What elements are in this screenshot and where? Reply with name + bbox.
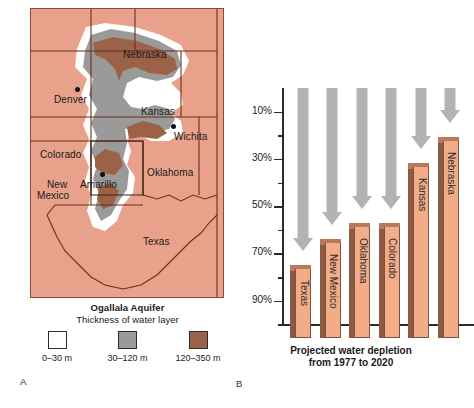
legend-item-0-30m: 0–30 m — [26, 331, 88, 363]
y-tick-major — [274, 253, 284, 254]
bar-label: Texas — [296, 275, 310, 306]
bar-new-mexico[interactable]: New Mexico — [320, 239, 341, 338]
depletion-arrow — [381, 88, 402, 209]
y-tick-major — [274, 206, 284, 207]
city-dot-amarillo — [100, 172, 105, 177]
y-tick-minor — [278, 230, 284, 231]
chart-caption-line2: from 1977 to 2020 — [240, 357, 462, 369]
bar-nebraska[interactable]: Nebraska — [438, 137, 459, 338]
depletion-arrow — [322, 88, 343, 225]
white-swatch-icon — [48, 331, 67, 349]
panel-label-a: A — [20, 376, 26, 387]
y-tick-label: 30% — [238, 152, 272, 163]
bar-front-face: New Mexico — [325, 243, 341, 338]
arrow-head-icon — [440, 110, 460, 123]
map-label-oklahoma: Oklahoma — [147, 167, 193, 178]
bar-front-face: Texas — [295, 269, 311, 338]
map-label-texas: Texas — [143, 236, 170, 247]
bar-label: Nebraska — [444, 147, 458, 195]
map-label-colorado: Colorado — [40, 149, 81, 160]
arrow-shaft — [386, 88, 397, 196]
legend-caption-120-350m: 120–350 m — [167, 353, 229, 363]
arrow-shaft — [445, 88, 456, 110]
map-frame: Nebraska Kansas Colorado Wichita Oklahom… — [30, 8, 224, 298]
chart-caption-line1: Projected water depletion — [240, 345, 462, 357]
depletion-arrow — [351, 88, 372, 209]
bar-label: New Mexico — [326, 249, 340, 308]
legend-caption-0-30m: 0–30 m — [26, 353, 88, 363]
arrow-shaft — [327, 88, 338, 212]
arrow-shaft — [356, 88, 367, 196]
bar-label: Oklahoma — [355, 233, 369, 284]
gray-swatch-icon — [118, 331, 137, 349]
legend-title: Ogallala Aquifer — [20, 302, 235, 313]
bar-label: Colorado — [385, 233, 399, 279]
map-label-new: New — [47, 179, 67, 190]
arrow-head-icon — [293, 238, 313, 251]
city-dot-wichita — [171, 124, 176, 129]
depletion-arrow — [440, 88, 461, 123]
arrow-shaft — [415, 88, 426, 136]
y-tick-label: 90% — [238, 294, 272, 305]
map-label-nebraska: Nebraska — [123, 49, 167, 60]
map-label-denver: Denver — [54, 94, 87, 105]
map-legend: Ogallala Aquifer Thickness of water laye… — [20, 302, 235, 363]
city-dot-denver — [75, 87, 80, 92]
map-label-mexico: Mexico — [37, 190, 69, 201]
bar-front-face: Oklahoma — [354, 227, 370, 339]
panel-b-chart: 10%30%50%70%90% TexasNew MexicoOklahomaC… — [240, 0, 462, 408]
y-tick-label: 70% — [238, 246, 272, 257]
y-tick-minor — [278, 135, 284, 136]
bar-front-face: Colorado — [384, 227, 400, 339]
legend-item-30-120m: 30–120 m — [97, 331, 159, 363]
arrow-head-icon — [352, 196, 372, 209]
legend-subtitle: Thickness of water layer — [20, 314, 235, 325]
bar-texas[interactable]: Texas — [290, 265, 311, 338]
legend-caption-30-120m: 30–120 m — [97, 353, 159, 363]
y-tick-minor — [278, 277, 284, 278]
depletion-arrow — [410, 88, 431, 149]
bar-front-face: Nebraska — [443, 141, 459, 338]
arrow-head-icon — [411, 136, 431, 149]
legend-item-120-350m: 120–350 m — [167, 331, 229, 363]
y-tick-minor — [278, 324, 284, 325]
map-label-wichita: Wichita — [174, 131, 207, 142]
bar-kansas[interactable]: Kansas — [408, 163, 429, 338]
y-tick-major — [274, 159, 284, 160]
y-tick-minor — [278, 183, 284, 184]
y-tick-major — [274, 112, 284, 113]
chart-caption: Projected water depletion from 1977 to 2… — [240, 345, 462, 369]
arrow-head-icon — [322, 212, 342, 225]
panel-label-b: B — [236, 378, 242, 389]
depletion-arrow — [292, 88, 313, 251]
y-tick-label: 50% — [238, 199, 272, 210]
brown-swatch-icon — [189, 331, 208, 349]
y-tick-label: 10% — [238, 105, 272, 116]
map-label-kansas: Kansas — [141, 106, 175, 117]
bar-front-face: Kansas — [413, 167, 429, 338]
bar-oklahoma[interactable]: Oklahoma — [349, 223, 370, 339]
arrow-shaft — [297, 88, 308, 238]
arrow-head-icon — [381, 196, 401, 209]
map-label-amarillo: Amarillo — [80, 179, 117, 190]
y-tick-major — [274, 301, 284, 302]
bar-label: Kansas — [414, 173, 428, 211]
panel-a-map: Nebraska Kansas Colorado Wichita Oklahom… — [0, 0, 240, 408]
bar-colorado[interactable]: Colorado — [379, 223, 400, 339]
bar-chart-plot-area: 10%30%50%70%90% TexasNew MexicoOklahomaC… — [260, 88, 460, 340]
